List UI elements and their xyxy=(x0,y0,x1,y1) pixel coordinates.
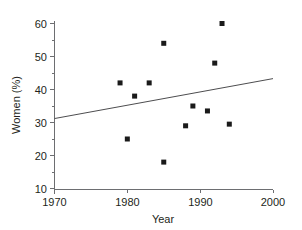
y-tick-label-60: 60 xyxy=(35,18,47,30)
data-points-group xyxy=(118,21,232,165)
data-point-marker xyxy=(161,160,166,165)
data-point-marker xyxy=(161,41,166,46)
y-tick-label-10: 10 xyxy=(35,183,47,195)
data-point-marker xyxy=(212,61,217,66)
data-point-marker xyxy=(205,108,210,113)
x-tick-label-1980: 1980 xyxy=(115,196,139,208)
data-point-marker xyxy=(190,104,195,109)
y-tick-label-30: 30 xyxy=(35,117,47,129)
chart-canvas: 60 50 40 30 20 10 1970 1980 1990 2000 Ye… xyxy=(0,0,302,230)
data-point-marker xyxy=(125,137,130,142)
y-axis-title: Women (%) xyxy=(10,76,22,134)
x-axis-tick-labels: 1970 1980 1990 2000 xyxy=(42,196,285,208)
data-point-marker xyxy=(147,80,152,85)
x-axis-ticks xyxy=(55,190,274,195)
y-tick-label-20: 20 xyxy=(35,150,47,162)
x-tick-label-1970: 1970 xyxy=(42,196,66,208)
x-tick-label-2000: 2000 xyxy=(261,196,285,208)
data-point-marker xyxy=(132,94,137,99)
y-tick-label-50: 50 xyxy=(35,51,47,63)
data-point-marker xyxy=(118,80,123,85)
scatter-chart: 60 50 40 30 20 10 1970 1980 1990 2000 Ye… xyxy=(0,0,302,230)
data-point-marker xyxy=(183,123,188,128)
y-axis-tick-labels: 60 50 40 30 20 10 xyxy=(35,18,47,195)
trend-line xyxy=(55,79,274,119)
y-tick-label-40: 40 xyxy=(35,84,47,96)
data-point-marker xyxy=(220,21,225,26)
x-axis-title: Year xyxy=(152,213,175,225)
data-point-marker xyxy=(227,122,232,127)
x-tick-label-1990: 1990 xyxy=(188,196,212,208)
